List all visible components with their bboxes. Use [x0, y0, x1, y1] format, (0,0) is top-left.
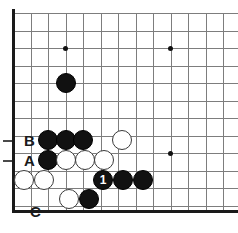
white-stone-a-row-2[interactable] — [75, 150, 95, 170]
black-stone-row-3-3[interactable] — [133, 170, 153, 190]
grid-line-horizontal-5 — [13, 101, 238, 102]
grid-line-horizontal-1 — [13, 31, 238, 32]
grid-line-horizontal-0 — [13, 13, 238, 14]
black-stone-a-row-1[interactable] — [38, 150, 58, 170]
grid-line-horizontal-6 — [13, 118, 238, 119]
grid-line-horizontal-11 — [13, 206, 238, 207]
grid-line-horizontal-4 — [13, 83, 238, 84]
black-stone-row-3-2[interactable] — [113, 170, 133, 190]
white-stone-a-row-3[interactable] — [94, 150, 114, 170]
go-diagram: BAC1 — [0, 0, 238, 233]
point-label-b: B — [24, 133, 35, 148]
black-stone-approach[interactable] — [56, 73, 76, 93]
grid-line-horizontal-3 — [13, 66, 238, 67]
white-stone-left-2[interactable] — [34, 170, 54, 190]
grid-line-vertical-8 — [153, 13, 154, 211]
grid-line-vertical-11 — [206, 13, 207, 211]
star-point-top-right — [168, 46, 173, 51]
grid-line-vertical-9 — [171, 13, 172, 211]
point-label-b-tick — [3, 140, 12, 142]
grid-line-horizontal-2 — [13, 48, 238, 49]
point-label-a-tick — [3, 160, 12, 162]
grid-line-vertical-10 — [188, 13, 189, 211]
board-edge-bottom — [12, 210, 238, 213]
black-stone-bottom-1[interactable] — [79, 189, 99, 209]
black-stone-move-1[interactable]: 1 — [93, 170, 113, 190]
point-label-c: C — [30, 204, 41, 219]
black-stone-b-row-3[interactable] — [73, 130, 93, 150]
star-point-top-left — [63, 46, 68, 51]
go-board[interactable]: BAC1 — [0, 0, 238, 233]
white-stone-bottom-1[interactable] — [59, 189, 79, 209]
white-stone-b-row-right[interactable] — [112, 130, 132, 150]
grid-line-vertical-4 — [83, 13, 84, 211]
star-point-right — [168, 151, 173, 156]
point-label-a: A — [24, 153, 35, 168]
grid-line-vertical-3 — [66, 13, 67, 211]
move-number-1: 1 — [94, 171, 112, 189]
grid-line-vertical-12 — [223, 13, 224, 211]
white-stone-left-1[interactable] — [14, 170, 34, 190]
white-stone-a-row-1[interactable] — [56, 150, 76, 170]
